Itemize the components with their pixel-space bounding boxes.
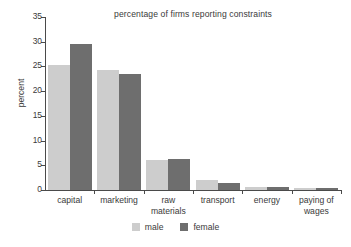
bar-group: [97, 17, 141, 190]
y-axis-tick-label: 10: [20, 135, 42, 145]
bar-female: [168, 159, 190, 190]
legend-label: female: [193, 222, 219, 232]
bar-male: [196, 180, 218, 190]
legend-swatch: [132, 223, 140, 231]
x-axis-category-label: transport: [193, 195, 242, 206]
y-axis-tick-label: 15: [20, 110, 42, 120]
bar-female: [316, 188, 338, 190]
x-axis-category-label: rawmaterials: [144, 195, 193, 217]
bar-male: [48, 65, 70, 190]
y-axis-tick-label: 20: [20, 85, 42, 95]
legend-label: male: [145, 222, 164, 232]
x-axis-category-label-line: marketing: [94, 195, 143, 206]
x-axis-tick-mark: [94, 190, 95, 194]
bar-female: [70, 44, 92, 190]
x-axis-category-label: marketing: [94, 195, 143, 206]
y-axis-tick-label: 35: [20, 11, 42, 21]
legend-item-female: female: [180, 222, 219, 232]
bar-group: [48, 17, 92, 190]
y-axis-tick-label: 25: [20, 60, 42, 70]
x-axis-category-label-line: wages: [292, 206, 341, 217]
bar-female: [267, 187, 289, 190]
x-axis-tick-mark: [292, 190, 293, 194]
y-axis-tick-label: 5: [20, 159, 42, 169]
x-axis-tick-mark: [144, 190, 145, 194]
x-axis-tick-mark: [193, 190, 194, 194]
bar-chart: percentage of firms reporting constraint…: [0, 0, 351, 247]
x-axis-category-label: capital: [45, 195, 94, 206]
bar-male: [294, 188, 316, 190]
bar-female: [218, 183, 240, 190]
bar-male: [245, 187, 267, 190]
y-axis-line: [45, 17, 46, 190]
x-axis-tick-mark: [341, 190, 342, 194]
x-axis-category-label-line: capital: [45, 195, 94, 206]
plot-area: 05101520253035 capitalmarketingrawmateri…: [45, 17, 341, 190]
x-axis-category-label-line: materials: [144, 206, 193, 217]
bar-group: [245, 17, 289, 190]
bar-male: [146, 160, 168, 190]
x-axis-category-label-line: energy: [242, 195, 291, 206]
bar-group: [196, 17, 240, 190]
x-axis-category-label: paying ofwages: [292, 195, 341, 217]
legend-item-male: male: [132, 222, 164, 232]
bar-male: [97, 70, 119, 190]
x-axis-category-label: energy: [242, 195, 291, 206]
bar-group: [294, 17, 338, 190]
legend-swatch: [180, 223, 188, 231]
x-axis-category-label-line: paying of: [292, 195, 341, 206]
bar-female: [119, 74, 141, 190]
chart-legend: malefemale: [0, 222, 351, 232]
x-axis-tick-mark: [242, 190, 243, 194]
x-axis-category-label-line: transport: [193, 195, 242, 206]
x-axis-category-label-line: raw: [144, 195, 193, 206]
y-axis-tick-label: 0: [20, 184, 42, 194]
y-axis-tick-label: 30: [20, 36, 42, 46]
bar-group: [146, 17, 190, 190]
